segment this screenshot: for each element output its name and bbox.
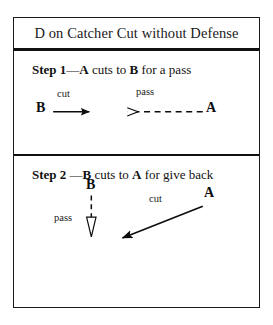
step-2-cut-arrow-line: [122, 206, 202, 238]
step-2-player-a: A: [204, 186, 214, 200]
step-1-play-canvas: [14, 51, 259, 154]
diagram-title-band: D on Catcher Cut without Defense: [14, 18, 259, 51]
step-2-panel: Step 2 —B cuts to A for give back B A pa…: [14, 156, 259, 307]
step-2-pass-label: pass: [54, 213, 72, 224]
diagram-title: D on Catcher Cut without Defense: [34, 25, 238, 42]
step-1-pass-label: pass: [136, 87, 154, 98]
step-1-panel: Step 1—A cuts to B for a pass B A cut pa…: [14, 51, 259, 156]
step-1-player-a: A: [206, 101, 216, 115]
step-2-cut-label: cut: [149, 194, 162, 205]
step-1-player-b: B: [36, 101, 45, 115]
step-2-pass-arrowhead: [87, 217, 96, 237]
play-diagram-frame: D on Catcher Cut without Defense Step 1—…: [13, 17, 260, 308]
step-1-cut-label: cut: [57, 89, 70, 100]
step-2-play-canvas: [14, 156, 259, 307]
step-2-player-b: B: [86, 178, 95, 192]
